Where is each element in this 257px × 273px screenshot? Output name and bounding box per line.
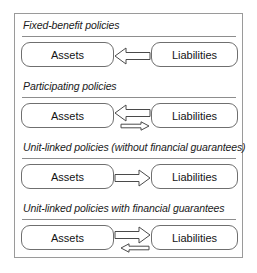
node-liabilities: Liabilities [151, 164, 238, 189]
liabilities-to-assets-arrow [120, 243, 150, 253]
node-assets-label: Assets [51, 232, 84, 244]
section-divider-rule [22, 36, 236, 37]
diagram-section-participating: Participating policies Assets Liabilitie… [15, 76, 242, 137]
diagram-section-unit-linked-with-guarantees: Unit-linked policies with financial guar… [15, 198, 242, 259]
liabilities-to-assets-arrow [114, 104, 151, 122]
arrow-group [114, 163, 151, 191]
section-heading: Unit-linked policies with financial guar… [23, 202, 224, 214]
node-assets-label: Assets [51, 49, 84, 61]
diagram-frame: Fixed-benefit policies Assets Liabilitie… [14, 13, 243, 258]
section-divider-rule [22, 158, 236, 159]
assets-to-liabilities-arrow [114, 226, 151, 244]
section-divider-rule [22, 97, 236, 98]
node-assets: Assets [21, 225, 114, 250]
node-liabilities-label: Liabilities [172, 232, 217, 244]
node-liabilities-label: Liabilities [172, 171, 217, 183]
node-assets: Assets [21, 103, 114, 128]
node-liabilities: Liabilities [151, 103, 238, 128]
node-assets-label: Assets [51, 110, 84, 122]
section-heading: Unit-linked policies (without financial … [23, 141, 246, 153]
assets-to-liabilities-arrow [120, 121, 150, 131]
node-liabilities-label: Liabilities [172, 49, 217, 61]
node-liabilities: Liabilities [151, 225, 238, 250]
arrow-group [114, 102, 151, 130]
section-heading: Participating policies [23, 80, 117, 92]
node-assets: Assets [21, 164, 114, 189]
section-divider-rule [22, 219, 236, 220]
arrow-group [114, 224, 151, 252]
node-liabilities: Liabilities [151, 42, 238, 67]
arrow-group [114, 41, 151, 69]
node-assets-label: Assets [51, 171, 84, 183]
diagram-section-fixed-benefit: Fixed-benefit policies Assets Liabilitie… [15, 15, 242, 76]
assets-to-liabilities-arrow [114, 169, 151, 187]
node-liabilities-label: Liabilities [172, 110, 217, 122]
diagram-section-unit-linked-without-guarantees: Unit-linked policies (without financial … [15, 137, 242, 198]
liabilities-to-assets-arrow [114, 47, 151, 65]
section-heading: Fixed-benefit policies [23, 19, 119, 31]
node-assets: Assets [21, 42, 114, 67]
